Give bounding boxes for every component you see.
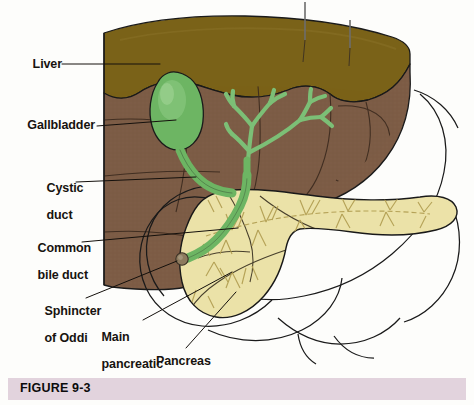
- label-sphincter-of-oddi-line2: of Oddi: [45, 331, 88, 345]
- figure-container: Liver Gallbladder Cystic duct Common bil…: [0, 0, 474, 405]
- label-common-bile-duct-line2: bile duct: [38, 268, 89, 282]
- label-liver: Liver: [10, 58, 62, 72]
- label-common-bile-duct: Common bile duct: [24, 228, 94, 296]
- figure-caption-text: FIGURE 9-3: [20, 381, 91, 395]
- label-gallbladder: Gallbladder: [8, 119, 95, 133]
- label-sphincter-of-oddi-line1: Sphincter: [45, 304, 102, 318]
- pancreas: [180, 189, 457, 317]
- label-cystic-duct: Cystic duct: [33, 168, 93, 236]
- label-cystic-duct-line2: duct: [47, 208, 73, 222]
- sphincter-of-oddi-node: [176, 253, 188, 265]
- label-pancreas: Pancreas: [156, 355, 226, 369]
- label-main-pancreatic-duct-line1: Main: [102, 330, 130, 344]
- label-main-pancreatic-duct-line2: pancreatic: [102, 357, 164, 371]
- label-cystic-duct-line1: Cystic: [47, 181, 84, 195]
- label-common-bile-duct-line1: Common: [38, 241, 92, 255]
